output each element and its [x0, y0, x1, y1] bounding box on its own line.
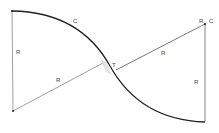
- label-c-left-arc: C: [73, 18, 77, 24]
- right-center-point: [204, 23, 206, 25]
- right-arc: [110, 66, 205, 122]
- left-top-point: [11, 10, 13, 12]
- label-t-point: T: [112, 62, 116, 68]
- left-vertical-radius-line: [12, 11, 13, 111]
- right-diagonal-radius-line: [116, 24, 205, 70]
- reverse-curve-diagram: [0, 0, 219, 133]
- left-diagonal-radius-line: [13, 63, 103, 111]
- left-center-point: [12, 110, 14, 112]
- label-r-right-vertical: R: [194, 79, 198, 85]
- left-arc-c: [12, 11, 110, 66]
- label-c-right-center: C: [209, 18, 213, 24]
- label-r-right-diagonal: R: [161, 50, 165, 56]
- label-r-right-center: R: [199, 18, 203, 24]
- label-r-left-vertical: R: [16, 49, 20, 55]
- label-r-left-diagonal: R: [56, 77, 60, 83]
